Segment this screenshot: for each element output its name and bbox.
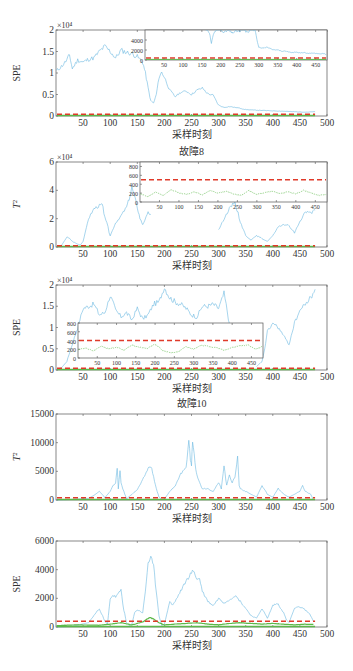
x-tick-label: 500 [320, 372, 335, 382]
x-tick-label: 50 [78, 118, 88, 128]
x-tick-label: 250 [184, 118, 199, 128]
x-tick-label: 250 [170, 360, 179, 366]
x-tick-label: 50 [78, 502, 88, 512]
y-tick-label: 0 [73, 356, 76, 362]
y-tick-label: 2 [49, 25, 54, 35]
x-tick-label: 50 [78, 372, 88, 382]
x-tick-label: 200 [213, 204, 222, 210]
x-axis-label: 采样时刻 [172, 639, 212, 651]
inset-frame [145, 30, 327, 60]
x-tick-label: 500 [320, 502, 335, 512]
y-tick-label: 200 [129, 191, 138, 197]
y-tick-label: 6000 [35, 536, 54, 546]
x-tick-label: 350 [208, 360, 217, 366]
x-tick-label: 500 [320, 629, 335, 639]
plot-frame [56, 541, 327, 627]
x-tick-label: 450 [311, 204, 320, 210]
chart-panel-5: 5010015020025030035040045050002000400060… [11, 536, 334, 651]
y-tick-label: 4 [49, 185, 54, 195]
x-tick-label: 100 [103, 118, 118, 128]
x-tick-label: 150 [131, 360, 140, 366]
y-tick-label: 0 [135, 200, 138, 206]
x-tick-label: 250 [235, 62, 244, 68]
y-tick-label: 15000 [30, 409, 54, 419]
y-axis-label: SPE [11, 575, 22, 592]
y-exponent-label: ×10⁴ [57, 153, 73, 162]
x-tick-label: 400 [266, 372, 281, 382]
x-tick-label: 100 [112, 360, 121, 366]
y-tick-label: 1 [49, 68, 54, 78]
y-tick-label: 800 [67, 321, 76, 327]
y-axis-label: T² [11, 199, 22, 209]
y-tick-label: 4000 [131, 38, 143, 44]
y-tick-label: 200 [67, 347, 76, 353]
y-tick-label: 1 [49, 323, 54, 333]
y-axis-label: SPE [11, 64, 22, 81]
chart-panel-3: 5010015020025030035040045050000.511.52×1… [11, 276, 334, 394]
y-axis-label: T² [11, 452, 22, 462]
x-tick-label: 50 [94, 360, 100, 366]
x-tick-label: 50 [156, 204, 162, 210]
x-tick-label: 350 [239, 249, 254, 259]
y-tick-label: 0 [49, 365, 54, 375]
x-tick-label: 350 [239, 372, 254, 382]
chart-panel-1: 5010015020025030035040045050000.511.52×1… [11, 21, 334, 140]
x-tick-label: 250 [233, 204, 242, 210]
x-tick-label: 300 [211, 629, 226, 639]
x-tick-label: 200 [157, 502, 172, 512]
x-tick-label: 350 [239, 118, 254, 128]
x-tick-label: 350 [273, 62, 282, 68]
x-tick-label: 200 [151, 360, 160, 366]
y-tick-label: 6 [49, 157, 54, 167]
x-tick-label: 100 [174, 204, 183, 210]
x-tick-label: 350 [272, 204, 281, 210]
x-tick-label: 150 [130, 629, 145, 639]
x-tick-label: 450 [293, 249, 308, 259]
x-axis-label: 采样时刻 [172, 128, 212, 140]
x-axis-label: 采样时刻 [172, 382, 212, 394]
chart-panel-4: 5010015020025030035040045050005000100001… [11, 397, 334, 524]
y-axis-label: SPE [11, 319, 22, 336]
x-tick-label: 50 [161, 62, 167, 68]
x-tick-label: 300 [211, 372, 226, 382]
x-tick-label: 150 [130, 118, 145, 128]
x-axis-label: 采样时刻 [172, 259, 212, 271]
x-tick-label: 250 [184, 372, 199, 382]
y-tick-label: 0.5 [42, 90, 54, 100]
y-exponent-label: ×10⁴ [57, 21, 73, 30]
x-tick-label: 300 [189, 360, 198, 366]
x-tick-label: 150 [130, 372, 145, 382]
x-tick-label: 50 [78, 629, 88, 639]
y-tick-label: 0 [140, 58, 143, 64]
y-tick-label: 0 [49, 242, 54, 252]
x-tick-label: 450 [293, 502, 308, 512]
x-tick-label: 450 [293, 372, 308, 382]
x-tick-label: 500 [320, 249, 335, 259]
x-tick-label: 200 [157, 249, 172, 259]
y-tick-label: 400 [129, 182, 138, 188]
x-tick-label: 200 [216, 62, 225, 68]
chart-panel-2: 501001502002503003504004505000246×10⁴T²采… [11, 145, 334, 271]
x-tick-label: 100 [103, 372, 118, 382]
x-tick-label: 300 [211, 502, 226, 512]
y-tick-label: 600 [129, 173, 138, 179]
x-tick-label: 450 [293, 629, 308, 639]
y-tick-label: 2 [49, 280, 54, 290]
y-tick-label: 600 [67, 330, 76, 336]
inset-frame [140, 162, 327, 202]
y-tick-label: 2000 [35, 593, 54, 603]
y-tick-label: 800 [129, 164, 138, 170]
x-tick-label: 400 [266, 502, 281, 512]
y-tick-label: 1.5 [42, 47, 54, 57]
figure: 5010015020025030035040045050000.511.52×1… [0, 0, 353, 671]
x-tick-label: 100 [103, 249, 118, 259]
x-tick-label: 250 [184, 502, 199, 512]
x-tick-label: 400 [266, 249, 281, 259]
x-tick-label: 150 [194, 204, 203, 210]
x-tick-label: 500 [320, 118, 335, 128]
x-tick-label: 150 [130, 502, 145, 512]
x-tick-label: 300 [211, 249, 226, 259]
x-tick-label: 400 [266, 629, 281, 639]
x-tick-label: 400 [228, 360, 237, 366]
chart-title: 故障10 [177, 397, 207, 409]
